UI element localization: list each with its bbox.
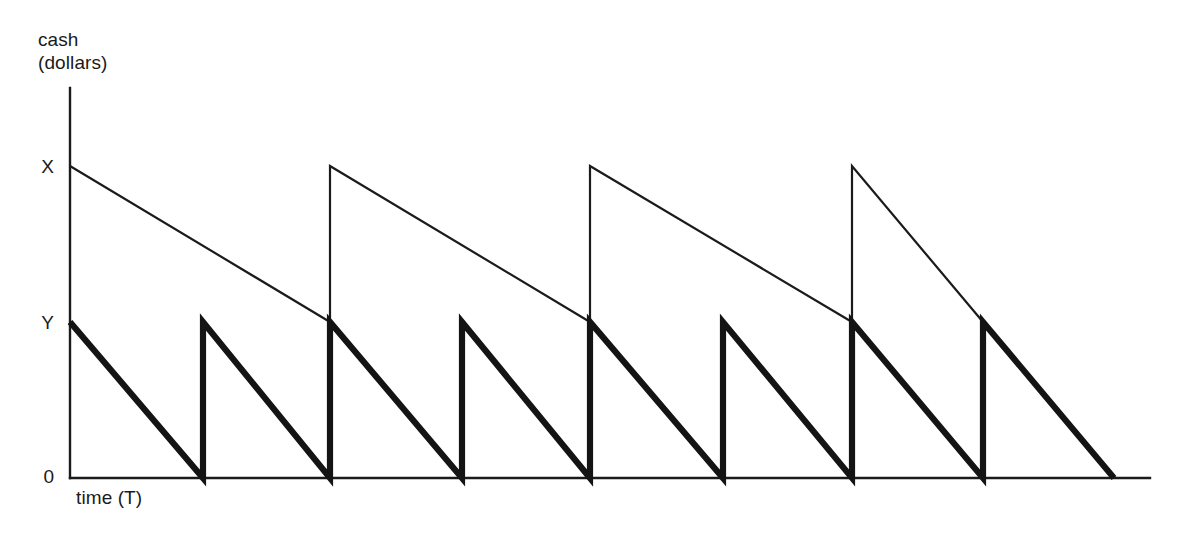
series-group: [70, 166, 1114, 478]
small-withdrawal-series-line: [70, 322, 1114, 478]
axis-group: [70, 88, 1150, 478]
cash-balance-figure: cash(dollars) X Y 0 time (T): [0, 0, 1178, 537]
sawtooth-plot-area: [0, 0, 1178, 537]
large-withdrawal-series-line: [70, 166, 983, 322]
